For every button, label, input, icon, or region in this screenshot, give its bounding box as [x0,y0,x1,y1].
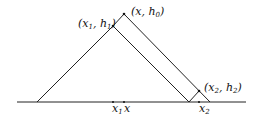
triangle-diagram: (x, h0) (x1, h1) (x2, h2) x1 x x2 [0,0,257,119]
label-apex: (x, h0) [131,5,164,19]
label-p1: (x1, h1) [78,17,116,31]
inner-right-edge [113,26,189,102]
axis-label-x1: x1 [112,102,123,116]
axis-label-x2: x2 [199,102,210,116]
label-p2: (x2, h2) [204,81,242,95]
perpendicular-edge [189,91,199,102]
apex-point [123,13,126,16]
outer-right-edge [124,14,210,102]
point-x2-h2 [198,90,201,93]
axis-label-x: x [124,102,131,115]
left-edge [37,26,113,102]
